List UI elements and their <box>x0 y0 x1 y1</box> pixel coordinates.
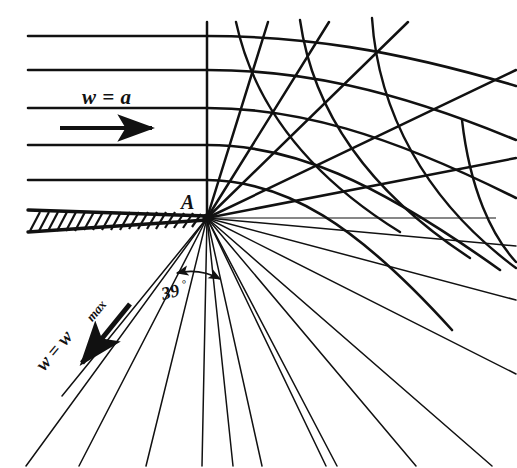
point-a-label: A <box>179 191 194 213</box>
apex-point <box>202 213 211 222</box>
figure-canvas: A w = a w = w max 39 ° <box>0 0 517 468</box>
inflow-label: w = a <box>82 85 131 109</box>
expansion-fan-figure: A w = a w = w max 39 ° <box>0 0 517 468</box>
